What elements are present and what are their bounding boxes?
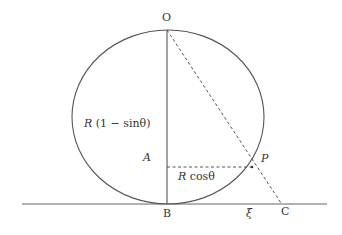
rolling-circle-diagram: O R (1 − sinθ) A R cosθ P B ξ C	[0, 0, 342, 235]
label-P: P	[260, 152, 269, 165]
label-B: B	[163, 207, 171, 220]
label-xi: ξ	[246, 207, 253, 220]
label-O: O	[162, 11, 171, 24]
label-C: C	[281, 205, 289, 218]
label-horizontal: R cosθ	[177, 170, 215, 183]
label-A: A	[142, 151, 151, 164]
point-P	[251, 166, 254, 169]
label-height: R (1 − sinθ)	[83, 117, 150, 130]
